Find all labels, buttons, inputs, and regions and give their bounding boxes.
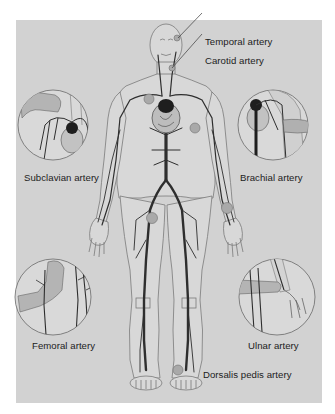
label-temporal-artery: Temporal artery	[205, 36, 272, 47]
inset-ulnar	[238, 258, 315, 335]
body-figure	[89, 24, 243, 390]
leader-line-temporal	[178, 13, 202, 38]
pulse-point-ulnar	[222, 203, 233, 214]
label-subclavian-artery: Subclavian artery	[24, 172, 99, 183]
inset-subclavian	[18, 90, 88, 160]
label-femoral-artery: Femoral artery	[32, 340, 95, 351]
head	[150, 24, 182, 66]
label-dorsalis-pedis-artery: Dorsalis pedis artery	[203, 369, 292, 380]
label-brachial-artery: Brachial artery	[240, 172, 303, 183]
pulse-point-subclavian	[144, 94, 154, 104]
inset-brachial	[238, 90, 310, 162]
label-carotid-artery: Carotid artery	[205, 55, 264, 66]
right-hand	[90, 218, 109, 245]
inset-femoral	[15, 258, 94, 335]
pulse-point-dorsalis-pedis	[173, 365, 183, 375]
pulse-point-temporal	[174, 35, 180, 41]
right-leg	[120, 196, 165, 378]
left-hand	[224, 218, 243, 245]
pulse-points-illustration	[0, 0, 335, 414]
pulse-point-brachial	[190, 123, 200, 133]
left-leg	[167, 196, 212, 378]
label-ulnar-artery: Ulnar artery	[248, 340, 299, 351]
pulse-point-femoral	[147, 213, 158, 224]
